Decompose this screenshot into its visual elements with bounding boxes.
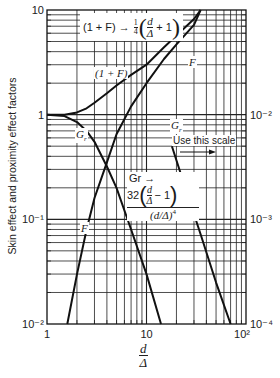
annotation-F-bottom: F bbox=[80, 222, 89, 234]
gr-right-G: G bbox=[171, 119, 179, 131]
paren-open: ( bbox=[139, 14, 147, 41]
d-num: d bbox=[147, 16, 153, 28]
annotation-1-plus-F: (1 + F) bbox=[94, 67, 128, 79]
gr-minus-one: − 1 bbox=[154, 189, 170, 201]
annotation-gr-formula: Gr → 32 ( d Δ − 1 ) (d/Δ)4 bbox=[127, 172, 199, 221]
x-axis-label-num: d bbox=[139, 342, 148, 356]
svg-text:10⁻²: 10⁻² bbox=[22, 318, 44, 330]
quarter-fraction: 1 4 bbox=[134, 19, 138, 36]
gr-formula-denominator: (d/Δ)4 bbox=[127, 208, 199, 221]
curves bbox=[47, 10, 231, 324]
annotation-Gr-left: Gr bbox=[75, 128, 88, 143]
gr-formula-numerator: 32 ( d Δ − 1 ) bbox=[127, 184, 199, 208]
x-axis-label-den: Δ bbox=[139, 356, 148, 369]
svg-text:10⁻³: 10⁻³ bbox=[250, 213, 272, 225]
svg-text:10: 10 bbox=[140, 328, 152, 340]
svg-text:10²: 10² bbox=[234, 328, 250, 340]
gr-pow: 4 bbox=[172, 208, 176, 216]
svg-text:10: 10 bbox=[32, 4, 44, 16]
gr-d: d bbox=[147, 185, 153, 196]
gr-den: (d/Δ) bbox=[150, 209, 172, 221]
svg-text:10⁻¹: 10⁻¹ bbox=[22, 213, 44, 225]
use-this-scale-text: Use this scale bbox=[173, 135, 235, 146]
y-axis-label: Skin effect and proximity effect factors bbox=[6, 66, 18, 266]
svg-text:1: 1 bbox=[38, 109, 44, 121]
gr-d-delta: d Δ bbox=[147, 185, 153, 206]
gr-right-r: r bbox=[179, 126, 182, 134]
plus-one: + 1 bbox=[156, 21, 172, 33]
svg-text:10⁻²: 10⁻² bbox=[250, 109, 272, 121]
quarter-den: 4 bbox=[134, 28, 138, 36]
d-delta-fraction: d Δ bbox=[147, 16, 153, 39]
curve-f bbox=[67, 10, 200, 324]
use-this-scale-label: Use this scale bbox=[172, 135, 236, 146]
paren-close: ) bbox=[172, 14, 180, 41]
gr-delta: Δ bbox=[147, 196, 153, 206]
x-axis-label: d Δ bbox=[139, 342, 148, 369]
gr-left-r: r bbox=[84, 135, 87, 143]
gr-32: 32 bbox=[127, 189, 139, 201]
annotation-asymptote: (1 + F) → 1 4 ( d Δ + 1 ) bbox=[80, 13, 183, 41]
delta-den: Δ bbox=[147, 28, 153, 39]
svg-text:10⁻⁴: 10⁻⁴ bbox=[250, 318, 273, 330]
annotation-Gr-right: Gr bbox=[170, 119, 183, 134]
gr-left-G: G bbox=[76, 128, 84, 140]
annotation-asymptote-prefix: (1 + F) → bbox=[83, 21, 133, 33]
annotation-F-top: F bbox=[188, 56, 197, 68]
gr-paren-open: ( bbox=[139, 184, 146, 206]
svg-text:1: 1 bbox=[44, 328, 50, 340]
gr-paren-close: ) bbox=[170, 184, 177, 206]
